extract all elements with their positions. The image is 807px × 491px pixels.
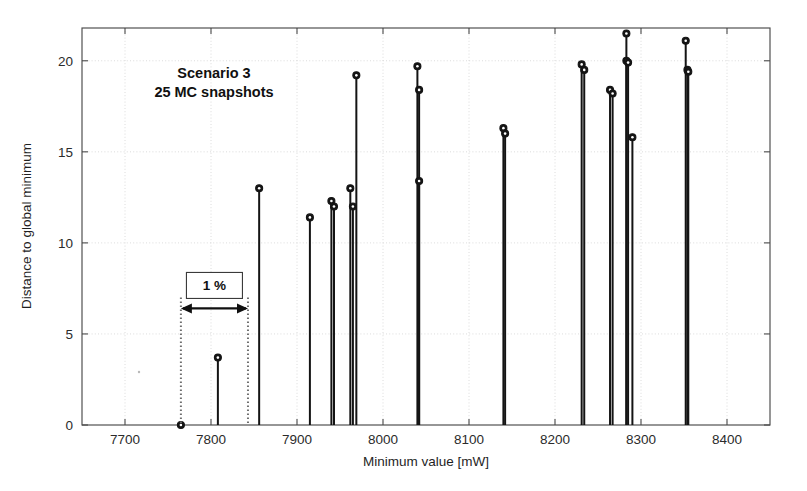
x-tick-label: 7700 [110,432,140,447]
stem-marker-core [217,356,220,359]
scenario-label-line-1: Scenario 3 [177,65,250,81]
stem-marker-core [330,200,333,203]
stem-marker-core [333,205,336,208]
stem-marker-core [611,92,614,95]
stem-marker-core [416,65,419,68]
stem-marker-core [258,187,261,190]
x-tick-label: 7800 [196,432,226,447]
x-tick-label: 8300 [626,432,656,447]
stem-marker-core [502,127,505,130]
scan-speck [138,371,140,373]
y-tick-label: 15 [58,145,73,160]
x-axis-title: Minimum value [mW] [363,454,489,469]
stem-marker-core [583,69,586,72]
stem-marker-core [418,89,421,92]
x-tick-label: 7900 [282,432,312,447]
span-label-text: 1 % [203,278,226,293]
stem-marker-core [625,32,628,35]
figure-container: 1 % 77007800790080008100820083008400 051… [0,0,807,491]
y-tick-label: 5 [65,327,73,342]
stem-marker-core [684,39,687,42]
y-axis-title: Distance to global minimum [19,143,34,309]
stem-marker-core [580,63,583,66]
stem-plot-svg: 1 % 77007800790080008100820083008400 051… [0,0,807,491]
stem-marker-core [627,61,630,64]
y-tick-label: 20 [58,54,73,69]
scenario-label-line-2: 25 MC snapshots [154,84,273,100]
y-tick-label: 10 [58,236,73,251]
stem-marker-core [504,132,507,135]
stem-marker-core [349,187,352,190]
stem-marker-core [309,216,312,219]
stem-marker-core [418,180,421,183]
y-tick-label: 0 [65,418,73,433]
stem-marker-core [352,205,355,208]
stem-marker-core [355,74,358,77]
stem-marker-core [687,70,690,73]
x-tick-label: 8000 [368,432,398,447]
stem-marker-core [631,136,634,139]
x-tick-label: 8100 [454,432,484,447]
x-tick-label: 8400 [712,432,742,447]
x-tick-label: 8200 [540,432,570,447]
